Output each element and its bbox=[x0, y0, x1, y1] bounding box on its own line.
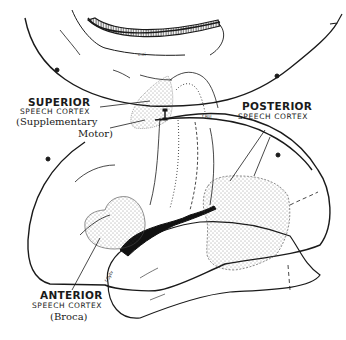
posterior-label-subtitle: SPEECH CORTEX bbox=[238, 113, 308, 121]
anterior-label-note: (Broca) bbox=[50, 312, 88, 322]
anterior-label-subtitle: SPEECH CORTEX bbox=[32, 302, 102, 310]
corpus-callosum bbox=[88, 18, 220, 37]
posterior-label-title: POSTERIOR bbox=[242, 101, 312, 112]
superior-label-title: SUPERIOR bbox=[28, 97, 90, 108]
rolandic-fissure-label: f.Rol bbox=[202, 114, 212, 119]
superior-label-note-2: Motor) bbox=[78, 129, 113, 139]
superior-label-subtitle: SPEECH CORTEX bbox=[20, 108, 90, 116]
anterior-label-title: ANTERIOR bbox=[40, 290, 103, 301]
medial-sulcus-label: c.ci bbox=[138, 52, 146, 57]
superior-label-note-1: (Supplementary bbox=[16, 117, 97, 127]
anterior-speech-cortex bbox=[85, 197, 145, 249]
